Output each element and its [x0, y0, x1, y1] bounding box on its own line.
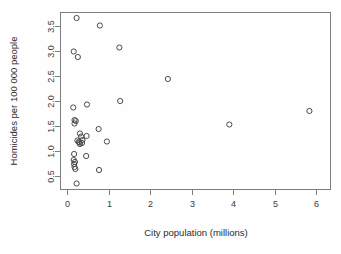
plot-canvas: 0123456 0.51.01.52.02.53.03.5 City popul…: [0, 0, 341, 254]
y-tick-label: 2.5: [46, 70, 56, 83]
data-point: [84, 102, 89, 107]
data-point: [227, 122, 232, 127]
y-tick-label: 3.5: [46, 20, 56, 33]
x-axis-ticks: 0123456: [65, 190, 319, 209]
y-axis-ticks: 0.51.01.52.02.53.03.5: [46, 20, 60, 183]
y-tick-label: 1.5: [46, 120, 56, 133]
data-point: [74, 15, 79, 20]
data-point: [97, 23, 102, 28]
data-point: [72, 151, 77, 156]
y-axis-title: Homicides per 100 000 people: [8, 37, 19, 166]
data-point: [118, 98, 123, 103]
y-tick-label: 2.0: [46, 95, 56, 108]
x-tick-label: 5: [273, 199, 278, 209]
data-point: [84, 133, 89, 138]
data-points: [71, 15, 312, 186]
data-point: [74, 181, 79, 186]
data-point: [71, 49, 76, 54]
x-tick-label: 0: [65, 199, 70, 209]
x-tick-label: 1: [107, 199, 112, 209]
x-tick-label: 2: [148, 199, 153, 209]
x-tick-label: 3: [190, 199, 195, 209]
scatter-plot-figure: 0123456 0.51.01.52.02.53.03.5 City popul…: [0, 0, 341, 254]
y-tick-label: 0.5: [46, 170, 56, 183]
data-point: [96, 126, 101, 131]
plot-frame: [61, 13, 331, 190]
data-point: [117, 45, 122, 50]
x-tick-label: 4: [231, 199, 236, 209]
data-point: [71, 105, 76, 110]
data-point: [84, 153, 89, 158]
y-tick-label: 3.0: [46, 45, 56, 58]
x-tick-label: 6: [314, 199, 319, 209]
data-point: [75, 54, 80, 59]
data-point: [104, 139, 109, 144]
data-point: [96, 167, 101, 172]
x-axis-title: City population (millions): [144, 227, 247, 238]
data-point: [165, 76, 170, 81]
data-point: [307, 108, 312, 113]
y-tick-label: 1.0: [46, 145, 56, 158]
